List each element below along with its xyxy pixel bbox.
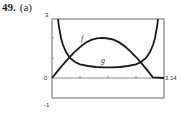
y-max-label: 3 [45, 12, 49, 18]
x-max-label: 3.14 [165, 75, 177, 81]
curve-f [52, 38, 164, 78]
y-min-label: -1 [44, 102, 50, 108]
graph: 3 -1 0 3.14 f g [0, 0, 186, 116]
label-f: f [81, 34, 85, 43]
origin-label: 0 [44, 75, 48, 81]
curve-g [58, 19, 158, 67]
label-g: g [101, 56, 105, 65]
